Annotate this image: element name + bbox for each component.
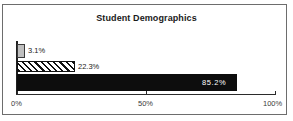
chart-figure: Student Demographics 0% 50% 100% 3.1% 22…	[0, 0, 293, 121]
bar-label-series-1: 3.1%	[28, 47, 45, 55]
x-tick-label-100: 100%	[263, 99, 282, 108]
chart-title: Student Demographics	[0, 13, 293, 23]
bar-label-series-3: 85.2%	[202, 79, 226, 87]
x-tick-100	[275, 91, 276, 95]
x-tick-50	[146, 91, 147, 95]
x-tick-label-0: 0%	[11, 99, 22, 108]
x-tick-0	[17, 91, 18, 95]
bar-series-1	[17, 44, 25, 58]
bar-label-series-2: 22.3%	[78, 63, 99, 71]
x-tick-label-50: 50%	[138, 99, 153, 108]
bar-series-2	[17, 61, 75, 72]
